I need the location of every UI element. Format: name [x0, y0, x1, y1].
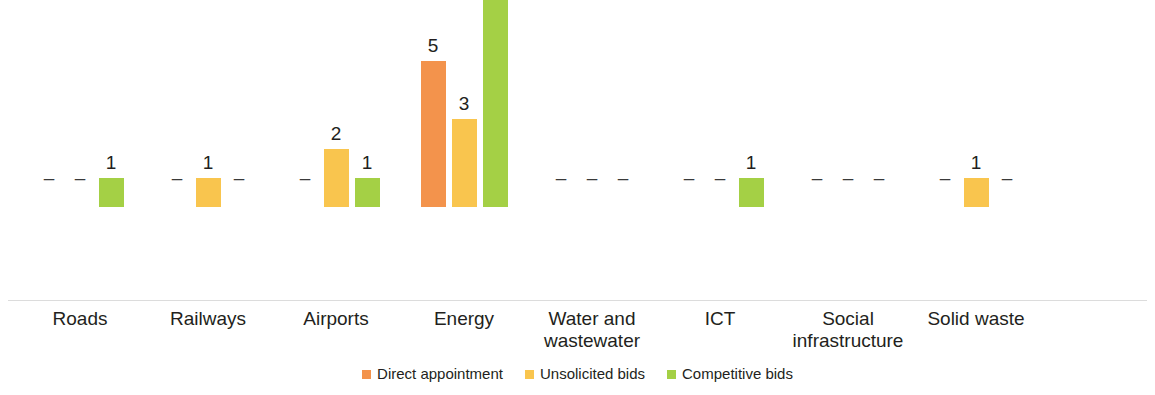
no-data-dash: – — [608, 168, 639, 187]
no-data-dash: – — [802, 168, 833, 187]
bar-group: ––1 — [16, 0, 144, 207]
bar[interactable] — [99, 178, 124, 207]
no-data-dash: – — [577, 168, 608, 187]
legend-label: Unsolicited bids — [540, 366, 645, 382]
no-data-dash: – — [705, 168, 736, 187]
legend-swatch-icon — [525, 370, 534, 379]
bar-value-label: 2 — [321, 124, 352, 143]
bar-slot: – — [65, 0, 96, 207]
bar-value-label: 1 — [961, 153, 992, 172]
chart-legend: Direct appointmentUnsolicited bidsCompet… — [0, 366, 1155, 382]
legend-swatch-icon — [362, 370, 371, 379]
bar-group-bars: –1– — [912, 0, 1040, 207]
no-data-dash: – — [674, 168, 705, 187]
bar-slot: – — [577, 0, 608, 207]
bar-group-bars: ––1 — [16, 0, 144, 207]
bar-slot: – — [992, 0, 1023, 207]
bar-value-label: 3 — [449, 94, 480, 113]
bar-group: ––– — [528, 0, 656, 207]
bar[interactable] — [964, 178, 989, 207]
bar-slot: 9 — [480, 0, 511, 207]
bar-group: –1– — [144, 0, 272, 207]
bar-group: –21 — [272, 0, 400, 207]
bar[interactable] — [355, 178, 380, 207]
bar-slot: 1 — [193, 0, 224, 207]
x-axis-category-label: Solid waste — [896, 308, 1056, 330]
no-data-dash: – — [992, 168, 1023, 187]
plot-area: ––1–1––21539–––––1––––1– — [0, 0, 1155, 302]
bar-slot: 1 — [736, 0, 767, 207]
bar[interactable] — [196, 178, 221, 207]
legend-label: Competitive bids — [682, 366, 793, 382]
bar-slot: – — [290, 0, 321, 207]
bar-slot: 5 — [418, 0, 449, 207]
bar-slot: – — [162, 0, 193, 207]
no-data-dash: – — [34, 168, 65, 187]
bar[interactable] — [324, 149, 349, 207]
bar-slot: – — [546, 0, 577, 207]
bar-group-bars: ––– — [528, 0, 656, 207]
legend-label: Direct appointment — [377, 366, 503, 382]
bar-slot: – — [833, 0, 864, 207]
bar-slot: – — [864, 0, 895, 207]
bar-value-label: 1 — [96, 153, 127, 172]
bar-value-label: 1 — [736, 153, 767, 172]
bar-group: –1– — [912, 0, 1040, 207]
bar-group-bars: 539 — [400, 0, 528, 207]
bar-slot: – — [802, 0, 833, 207]
no-data-dash: – — [65, 168, 96, 187]
no-data-dash: – — [833, 168, 864, 187]
bar[interactable] — [739, 178, 764, 207]
bar-slot: – — [224, 0, 255, 207]
bar-slot: – — [34, 0, 65, 207]
bar-slot: – — [674, 0, 705, 207]
bar-chart: ––1–1––21539–––––1––––1– RoadsRailwaysAi… — [0, 0, 1155, 395]
no-data-dash: – — [930, 168, 961, 187]
bar-group-bars: –1– — [144, 0, 272, 207]
bar[interactable] — [483, 0, 508, 207]
no-data-dash: – — [224, 168, 255, 187]
bar[interactable] — [421, 61, 446, 207]
bar-slot: 3 — [449, 0, 480, 207]
bar-group: 539 — [400, 0, 528, 207]
bar-group: ––– — [784, 0, 912, 207]
no-data-dash: – — [290, 168, 321, 187]
bar-value-label: 5 — [418, 36, 449, 55]
bar-group: ––1 — [656, 0, 784, 207]
no-data-dash: – — [162, 168, 193, 187]
legend-swatch-icon — [667, 370, 676, 379]
bar-value-label: 1 — [352, 153, 383, 172]
x-axis-baseline — [8, 300, 1147, 301]
bar-slot: 2 — [321, 0, 352, 207]
bar-slot: 1 — [352, 0, 383, 207]
bar-value-label: 1 — [193, 153, 224, 172]
legend-item[interactable]: Unsolicited bids — [525, 366, 645, 382]
no-data-dash: – — [864, 168, 895, 187]
bar-slot: – — [705, 0, 736, 207]
bar[interactable] — [452, 119, 477, 207]
no-data-dash: – — [546, 168, 577, 187]
bar-slot: 1 — [961, 0, 992, 207]
legend-item[interactable]: Direct appointment — [362, 366, 503, 382]
bar-slot: – — [930, 0, 961, 207]
bar-slot: – — [608, 0, 639, 207]
bar-slot: 1 — [96, 0, 127, 207]
legend-item[interactable]: Competitive bids — [667, 366, 793, 382]
bar-group-bars: ––1 — [656, 0, 784, 207]
bar-group-bars: ––– — [784, 0, 912, 207]
bar-group-bars: –21 — [272, 0, 400, 207]
